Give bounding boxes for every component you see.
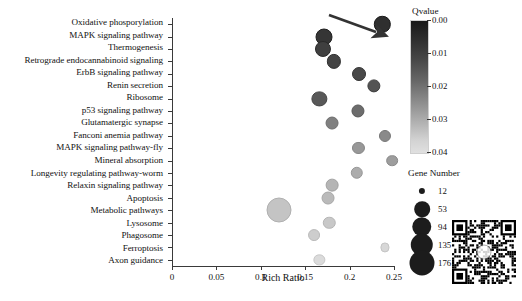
y-axis-tick <box>168 49 172 50</box>
qvalue-legend-tick-label: 0.01 <box>432 48 447 58</box>
data-point-bubble <box>374 16 390 32</box>
y-axis-label: Longevity regulating pathway-worm <box>0 169 168 179</box>
y-axis-label: MAPK signaling pathway-fly <box>0 143 168 153</box>
gene-number-legend-item: 53 <box>404 200 484 218</box>
y-axis-label: Retrograde endocannabinoid signaling <box>0 56 168 66</box>
qvalue-legend-tick-label: 0.02 <box>432 81 447 91</box>
gene-number-legend-item: 12 <box>404 182 484 200</box>
y-axis-tick <box>168 210 172 211</box>
data-point-bubble <box>351 104 364 117</box>
data-point-bubble <box>322 191 335 204</box>
gene-number-legend-label: 53 <box>438 204 447 214</box>
qvalue-legend-tick <box>427 152 431 153</box>
y-axis-tick <box>168 61 172 62</box>
y-axis-tick <box>168 247 172 248</box>
qvalue-legend-tick <box>427 86 431 87</box>
gene-number-legend-dot <box>410 251 435 276</box>
y-axis-tick <box>168 99 172 100</box>
x-axis-tick <box>305 266 306 270</box>
gene-number-legend-dot <box>414 201 430 217</box>
data-point-bubble <box>386 155 398 167</box>
data-point-bubble <box>352 67 366 81</box>
y-axis-tick <box>168 86 172 87</box>
y-axis-tick <box>168 74 172 75</box>
qvalue-colorbar-legend: Qvalue 0.000.010.020.030.04 <box>404 6 474 156</box>
y-axis-tick <box>168 123 172 124</box>
y-axis-tick <box>168 161 172 162</box>
qvalue-legend-tick-label: 0.04 <box>432 147 447 157</box>
y-axis-label: Lysosome <box>0 219 168 229</box>
gene-number-legend-label: 176 <box>438 258 451 268</box>
data-point-bubble <box>350 167 362 179</box>
y-axis-tick <box>168 24 172 25</box>
y-axis-label: Metabolic pathways <box>0 206 168 216</box>
y-axis-tick <box>168 223 172 224</box>
y-axis-label: ErbB signaling pathway <box>0 68 168 78</box>
y-axis-tick <box>168 136 172 137</box>
y-axis-label: Ferroptosis <box>0 244 168 254</box>
y-axis-label: Mineral absorption <box>0 156 168 166</box>
y-axis-tick <box>168 198 172 199</box>
x-axis-title: Rich Ratio <box>172 272 394 283</box>
gene-number-legend-dot <box>419 188 425 194</box>
y-axis-tick <box>168 173 172 174</box>
x-axis-tick <box>261 266 262 270</box>
kegg-enrichment-bubble-chart: Oxidative phosporylationMAPK signaling p… <box>0 0 522 301</box>
y-axis-label: Apoptosis <box>0 194 168 204</box>
x-axis-line <box>172 266 394 267</box>
y-axis-label: Phagosome <box>0 231 168 241</box>
data-point-bubble <box>323 216 335 228</box>
y-axis-label: Ribosome <box>0 93 168 103</box>
qvalue-legend-tick <box>427 119 431 120</box>
x-axis-tick <box>394 266 395 270</box>
gene-number-legend-label: 135 <box>438 240 451 250</box>
y-axis-tick <box>168 185 172 186</box>
y-axis-label: Renin secretion <box>0 81 168 91</box>
qvalue-gradient-bar <box>410 20 429 154</box>
data-point-bubble <box>367 80 380 93</box>
y-axis-line <box>172 18 173 266</box>
qvalue-legend-tick <box>427 20 431 21</box>
qvalue-legend-tick <box>427 53 431 54</box>
y-axis-tick <box>168 111 172 112</box>
x-axis-tick <box>172 266 173 270</box>
y-axis-tick <box>168 235 172 236</box>
y-axis-label: Relaxin signaling pathway <box>0 181 168 191</box>
y-axis-tick <box>168 148 172 149</box>
plot-area <box>172 18 394 266</box>
data-point-bubble <box>308 229 320 241</box>
qvalue-legend-tick-label: 0.00 <box>432 15 447 25</box>
data-point-bubble <box>381 243 390 252</box>
y-axis-tick <box>168 260 172 261</box>
gene-number-legend-label: 12 <box>438 186 447 196</box>
y-axis-label: Fanconi anemia pathway <box>0 131 168 141</box>
qvalue-legend-tick-label: 0.03 <box>432 114 447 124</box>
data-point-bubble <box>314 254 325 265</box>
gene-number-legend-label: 94 <box>438 222 447 232</box>
qr-code <box>452 220 516 284</box>
y-axis-tick <box>168 37 172 38</box>
data-point-bubble <box>266 198 291 223</box>
data-point-bubble <box>312 91 327 106</box>
data-point-bubble <box>379 130 391 142</box>
data-point-bubble <box>325 179 338 192</box>
data-point-bubble <box>352 142 364 154</box>
y-axis-label: Oxidative phosporylation <box>0 18 168 28</box>
y-axis-label: Axon guidance <box>0 256 168 266</box>
y-axis-label: Glutamatergic synapse <box>0 118 168 128</box>
gene-number-legend-title: Gene Number <box>408 168 460 178</box>
x-axis-tick <box>216 266 217 270</box>
y-axis-label: p53 signaling pathway <box>0 106 168 116</box>
data-point-bubble <box>325 117 338 130</box>
y-axis-label: Thermogenesis <box>0 43 168 53</box>
x-axis-tick <box>350 266 351 270</box>
data-point-bubble <box>326 54 340 68</box>
y-axis-category-labels: Oxidative phosporylationMAPK signaling p… <box>0 18 168 266</box>
y-axis-label: MAPK signaling pathway <box>0 31 168 41</box>
